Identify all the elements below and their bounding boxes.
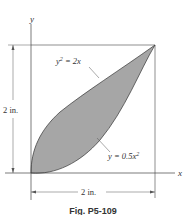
height-arrow-bottom	[12, 168, 15, 173]
upper-curve-label: y2 = 2x	[55, 56, 81, 66]
lower-curve-leader	[97, 138, 110, 152]
width-arrow-right	[150, 191, 155, 194]
height-dimension-label: 2 in.	[3, 105, 18, 115]
diagram: y x y2 = 2x y = 0.5x2 2 in. 2 in. Fig. P…	[0, 0, 186, 215]
y-axis-label: y	[29, 14, 34, 24]
height-arrow-top	[12, 45, 15, 50]
lower-curve-label: y = 0.5x2	[107, 151, 139, 161]
width-dimension-label: 2 in.	[81, 187, 96, 197]
width-arrow-left	[31, 191, 36, 194]
figure-caption: Fig. P5-109	[69, 206, 117, 215]
x-axis-label: x	[177, 168, 182, 178]
upper-curve-leader	[89, 67, 99, 78]
